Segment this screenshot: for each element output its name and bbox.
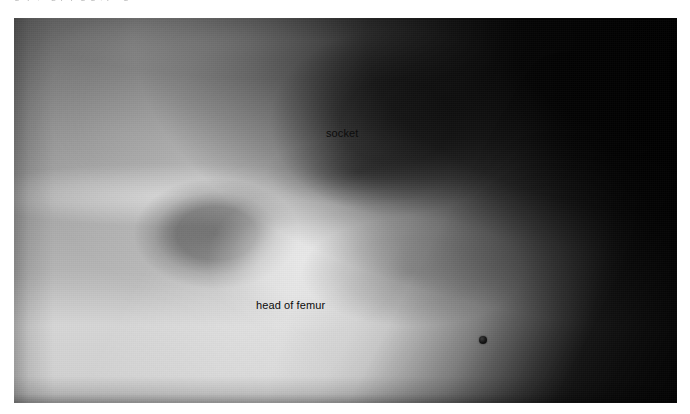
xray-acetabular-lip bbox=[14, 18, 677, 403]
xray-femoral-neck bbox=[14, 18, 677, 403]
radiograph-figure: socket head of femur bbox=[14, 18, 677, 403]
xray-femoral-head bbox=[14, 18, 677, 403]
xray-collimation-edge-top bbox=[14, 18, 677, 403]
annotation-label-head-of-femur: head of femur bbox=[256, 300, 325, 311]
document-page: Fig. p , f g p p g g , p f g bbox=[0, 0, 690, 414]
radiopaque-bead-marker bbox=[479, 336, 487, 344]
xray-film-edge-left bbox=[14, 18, 677, 403]
xray-iliac-crest-rim bbox=[14, 18, 677, 403]
xray-femoral-shaft bbox=[14, 18, 677, 403]
xray-base-density-layer bbox=[14, 18, 677, 403]
xray-lateral-soft-tissue-shadow bbox=[14, 18, 677, 403]
radiograph-image bbox=[14, 18, 677, 403]
xray-obturator-foramen bbox=[14, 18, 677, 403]
xray-dark-field-upper-right bbox=[14, 18, 677, 403]
clipped-caption-text: Fig. p , f g p p g g , p f g bbox=[4, 0, 686, 1]
clipped-caption-strip: Fig. p , f g p p g g , p f g bbox=[0, 0, 690, 13]
xray-ischium-region bbox=[14, 18, 677, 403]
xray-film-edge-bottom bbox=[14, 18, 677, 403]
xray-superior-pubic-ramus bbox=[14, 18, 677, 403]
xray-iliac-blade-region bbox=[14, 18, 677, 403]
annotation-label-socket: socket bbox=[326, 128, 358, 139]
xray-film-grain bbox=[14, 18, 677, 403]
xray-acetabular-socket bbox=[14, 18, 677, 403]
xray-sacrum-region bbox=[14, 18, 677, 403]
